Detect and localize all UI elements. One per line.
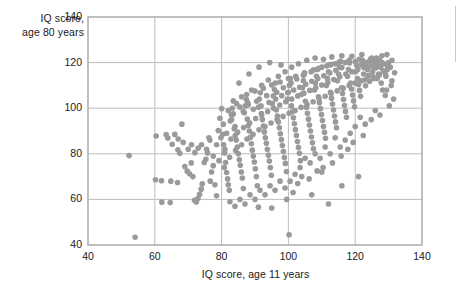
gridlines [88, 17, 422, 245]
plot-frame [88, 17, 422, 245]
data-points [126, 52, 397, 240]
plot-area [0, 0, 463, 294]
right-edge-artifact [455, 6, 456, 62]
scatter-plot-figure: IQ score, age 80 years IQ score, age 11 … [0, 0, 463, 294]
